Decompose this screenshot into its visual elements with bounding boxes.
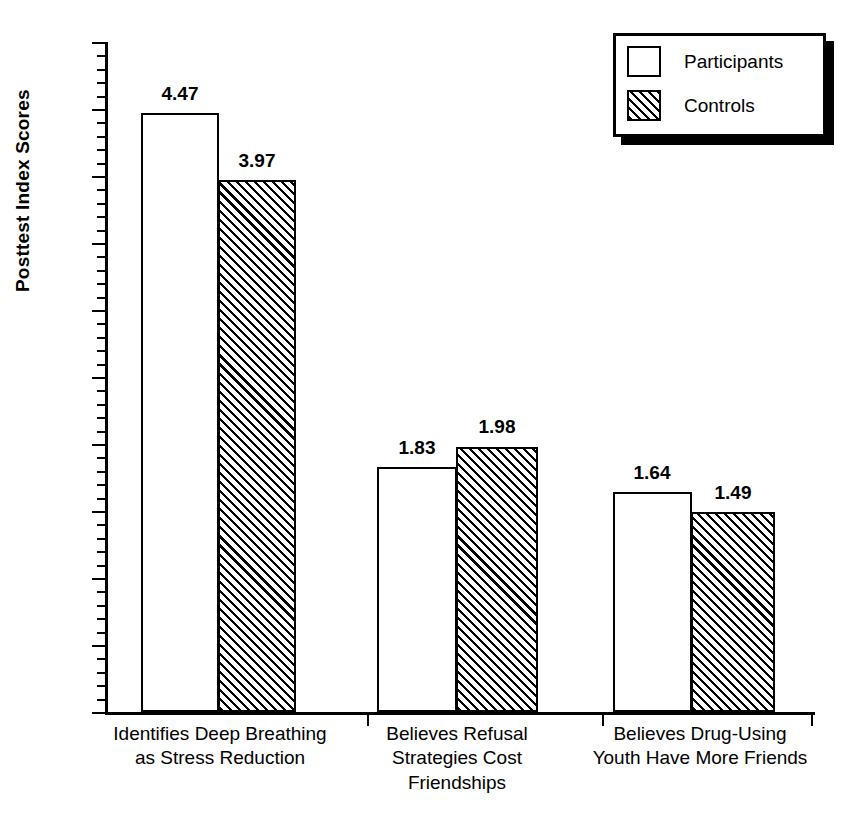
y-minor-tick-46 (97, 96, 105, 98)
y-minor-tick-12 (97, 551, 105, 553)
y-major-tick-10 (92, 42, 105, 44)
y-minor-tick-29 (97, 323, 105, 325)
bar-participants-group-1[interactable] (141, 113, 219, 712)
y-minor-tick-33 (97, 270, 105, 272)
category-label-2-line-1: Youth Have More Friends (593, 746, 808, 770)
y-major-tick-0 (92, 712, 105, 714)
y-minor-tick-1 (97, 699, 105, 701)
y-minor-tick-48 (97, 69, 105, 71)
category-label-0: Identifies Deep Breathing as Stress Redu… (113, 722, 326, 771)
y-minor-tick-13 (97, 538, 105, 540)
bar-controls-group-1[interactable] (218, 180, 296, 712)
y-minor-tick-26 (97, 364, 105, 366)
y-major-tick-3 (92, 511, 105, 513)
bar-chart-figure: Posttest Index Scores 0 0.5 1 1.5 2 2.5 … (0, 0, 848, 830)
y-minor-tick-42 (97, 149, 105, 151)
y-minor-tick-47 (97, 82, 105, 84)
bar-value-participants-group-3: 1.64 (634, 463, 671, 482)
y-minor-tick-41 (97, 163, 105, 165)
bar-value-controls-group-1: 3.97 (239, 151, 276, 170)
legend-entry-controls: Controls (627, 88, 755, 122)
y-minor-tick-18 (97, 471, 105, 473)
bar-participants-group-3[interactable] (613, 492, 692, 712)
bar-value-participants-group-1: 4.47 (162, 84, 199, 103)
legend-label-participants: Participants (684, 52, 783, 71)
y-minor-tick-2 (97, 685, 105, 687)
y-minor-tick-31 (97, 297, 105, 299)
bar-controls-group-3[interactable] (691, 512, 775, 712)
y-minor-tick-49 (97, 55, 105, 57)
category-label-1: Believes Refusal Strategies Cost Friends… (386, 722, 528, 795)
empty-square-swatch-icon (627, 46, 661, 77)
y-major-tick-7 (92, 243, 105, 245)
hatched-square-swatch-icon (627, 90, 661, 121)
y-minor-tick-32 (97, 283, 105, 285)
y-major-tick-2 (92, 578, 105, 580)
category-label-0-line-1: as Stress Reduction (113, 746, 326, 770)
y-minor-tick-38 (97, 203, 105, 205)
y-minor-tick-16 (97, 498, 105, 500)
bar-controls-group-2[interactable] (456, 447, 538, 712)
category-label-1-line-0: Believes Refusal (386, 722, 528, 746)
y-minor-tick-27 (97, 350, 105, 352)
category-label-2-line-0: Believes Drug-Using (593, 722, 808, 746)
y-minor-tick-7 (97, 618, 105, 620)
y-minor-tick-44 (97, 122, 105, 124)
y-minor-tick-23 (97, 404, 105, 406)
y-minor-tick-36 (97, 230, 105, 232)
y-major-tick-6 (92, 310, 105, 312)
y-minor-tick-24 (97, 390, 105, 392)
y-minor-tick-22 (97, 417, 105, 419)
y-major-tick-5 (92, 377, 105, 379)
bar-value-participants-group-2: 1.83 (399, 438, 436, 457)
y-minor-tick-39 (97, 189, 105, 191)
y-major-tick-4 (92, 444, 105, 446)
bar-value-controls-group-3: 1.49 (715, 483, 752, 502)
y-minor-tick-21 (97, 431, 105, 433)
y-minor-tick-4 (97, 658, 105, 660)
x-axis-end-tick (811, 712, 813, 726)
y-minor-tick-34 (97, 256, 105, 258)
legend-label-controls: Controls (684, 96, 755, 115)
y-minor-tick-3 (97, 672, 105, 674)
bar-value-controls-group-2: 1.98 (479, 417, 516, 436)
y-minor-tick-8 (97, 605, 105, 607)
y-minor-tick-43 (97, 136, 105, 138)
y-minor-tick-19 (97, 457, 105, 459)
y-minor-tick-6 (97, 632, 105, 634)
y-minor-tick-9 (97, 591, 105, 593)
category-label-2: Believes Drug-Using Youth Have More Frie… (593, 722, 808, 771)
y-axis-line (105, 42, 108, 715)
y-minor-tick-37 (97, 216, 105, 218)
bar-participants-group-2[interactable] (377, 467, 457, 712)
x-axis-line (105, 712, 815, 715)
category-label-1-line-2: Friendships (386, 771, 528, 795)
y-minor-tick-17 (97, 484, 105, 486)
y-minor-tick-11 (97, 565, 105, 567)
y-major-tick-9 (92, 109, 105, 111)
y-major-tick-8 (92, 176, 105, 178)
y-axis-title: Posttest Index Scores (12, 262, 34, 292)
category-label-1-line-1: Strategies Cost (386, 746, 528, 770)
y-major-tick-1 (92, 645, 105, 647)
legend-entry-participants: Participants (627, 44, 783, 78)
y-minor-tick-14 (97, 524, 105, 526)
x-group-separator-tick-1 (367, 712, 369, 726)
category-label-0-line-0: Identifies Deep Breathing (113, 722, 326, 746)
y-minor-tick-28 (97, 337, 105, 339)
